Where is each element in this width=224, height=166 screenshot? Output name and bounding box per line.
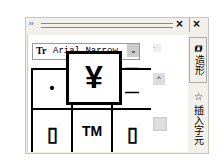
close-docker-button[interactable]: ×: [193, 17, 200, 31]
glyph-cell[interactable]: ▯: [33, 122, 71, 146]
truetype-icon: Tr: [36, 45, 46, 56]
shaping-icon: ⧉: [193, 45, 204, 52]
tab-insert-character[interactable]: ☆ 插入字元: [189, 85, 205, 151]
tab-label: 造形: [193, 55, 204, 75]
tab-label: 插入字元: [192, 105, 203, 145]
options-button[interactable]: ·: [153, 44, 161, 52]
glyph-cell[interactable]: ▯: [113, 122, 151, 146]
scroll-thumb[interactable]: [153, 117, 167, 131]
star-icon: ☆: [192, 91, 203, 102]
tab-shaping[interactable]: ⧉ 造形: [189, 37, 207, 83]
scroll-up-button[interactable]: ^: [153, 73, 165, 85]
separator: [189, 18, 190, 32]
glyph-preview: ¥: [66, 51, 122, 105]
glyph-cell[interactable]: TM: [73, 123, 111, 139]
title-grip[interactable]: [41, 23, 173, 28]
grip-icon[interactable]: ››: [29, 20, 34, 27]
grid-line: [33, 108, 151, 110]
chevron-down-icon[interactable]: ⌄: [127, 44, 139, 57]
close-panel-button[interactable]: ×: [176, 17, 183, 31]
